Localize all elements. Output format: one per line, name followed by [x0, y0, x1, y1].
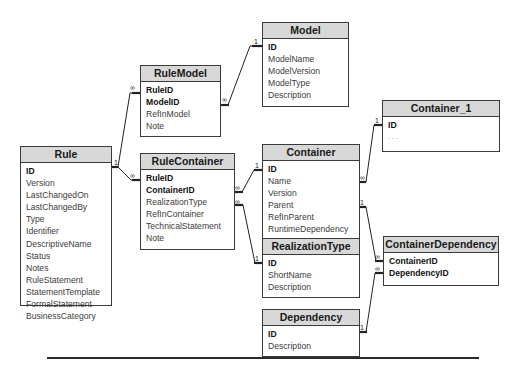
- field: RefInContainer: [146, 208, 234, 220]
- field-ellipsis: . . .: [388, 131, 499, 143]
- card-rulecontainer-many: ∞: [130, 172, 135, 179]
- card-rulecontainer-rt-many: ∞: [235, 198, 240, 205]
- field: DescriptiveName: [26, 238, 111, 250]
- field: ID: [26, 165, 111, 177]
- card-rulemodel-model-many: ∞: [222, 96, 227, 103]
- table-title: RuleContainer: [141, 154, 234, 170]
- field: ID: [268, 163, 359, 175]
- table-title: Container: [263, 145, 359, 161]
- field: RuntimeDependency: [268, 223, 359, 235]
- field: Parent: [268, 199, 359, 211]
- field: ModelType: [268, 77, 348, 89]
- table-dependency[interactable]: Dependency ID Description: [262, 309, 360, 357]
- table-container-1[interactable]: Container_1 ID . . .: [382, 100, 500, 152]
- field: Note: [146, 232, 234, 244]
- card-container-parent-many: ∞: [360, 174, 365, 181]
- table-title: Container_1: [383, 101, 499, 117]
- table-rulecontainer[interactable]: RuleContainer RuleID ContainerID Realiza…: [140, 153, 235, 250]
- field: ID: [388, 119, 499, 131]
- field: ModelName: [268, 53, 348, 65]
- field: DependencyID: [389, 267, 498, 279]
- field: ShortName: [268, 269, 359, 281]
- field: RefInParent: [268, 211, 359, 223]
- field: Description: [268, 281, 359, 293]
- table-title: Rule: [21, 147, 111, 163]
- field: RuleStatement: [26, 274, 111, 286]
- table-model[interactable]: Model ID ModelName ModelVersion ModelTyp…: [262, 22, 349, 107]
- field: TechnicalStatement: [146, 220, 234, 232]
- field: Version: [268, 187, 359, 199]
- field: ID: [268, 257, 359, 269]
- field: ID: [268, 41, 348, 53]
- table-title: RealizationType: [263, 239, 359, 255]
- card-rulecontainer-container-many: ∞: [235, 184, 240, 191]
- field: RefInModel: [146, 108, 220, 120]
- table-containerdependency[interactable]: ContainerDependency ContainerID Dependen…: [383, 236, 499, 286]
- field: Description: [268, 340, 359, 352]
- field: Name: [268, 175, 359, 187]
- table-title: RuleModel: [141, 66, 220, 82]
- field: ID: [268, 328, 359, 340]
- field: FormalStatement: [26, 298, 111, 310]
- field: Version: [26, 177, 111, 189]
- card-containerdependency-many: ∞: [375, 253, 380, 260]
- field: ModelID: [146, 96, 220, 108]
- field: StatementTemplate: [26, 286, 111, 298]
- field: Type: [26, 213, 111, 225]
- card-model-one: 1: [254, 38, 258, 45]
- field: RuleID: [146, 84, 220, 96]
- table-title: Dependency: [263, 310, 359, 326]
- table-realizationtype[interactable]: RealizationType ID ShortName Description: [262, 238, 360, 298]
- field: Identifier: [26, 225, 111, 237]
- field: Notes: [26, 262, 111, 274]
- card-container-one: 1: [255, 162, 259, 169]
- card-container-runtime-one: 1: [360, 199, 364, 206]
- horizontal-divider: [47, 357, 479, 359]
- card-dependency-one: 1: [360, 324, 364, 331]
- field: LastChangedOn: [26, 189, 111, 201]
- field: ModelVersion: [268, 65, 348, 77]
- field: ContainerID: [389, 255, 498, 267]
- table-rulemodel[interactable]: RuleModel RuleID ModelID RefInModel Note: [140, 65, 221, 137]
- field: RealizationType: [146, 196, 234, 208]
- card-realizationtype-one: 1: [255, 255, 259, 262]
- card-rule-one: 1: [114, 159, 118, 166]
- field: Note: [146, 120, 220, 132]
- field: Description: [268, 89, 348, 101]
- field: RuleID: [146, 172, 234, 184]
- table-title: Model: [263, 23, 348, 39]
- card-container1-one: 1: [375, 117, 379, 124]
- table-title: ContainerDependency: [384, 237, 498, 253]
- field: Status: [26, 250, 111, 262]
- table-rule[interactable]: Rule ID Version LastChangedOn LastChange…: [20, 146, 112, 306]
- field: BusinessCategory: [26, 310, 111, 322]
- card-rulemodel-many: ∞: [130, 84, 135, 91]
- field: LastChangedBy: [26, 201, 111, 213]
- field: ContainerID: [146, 184, 234, 196]
- card-containerdependency-dep-many: ∞: [375, 265, 380, 272]
